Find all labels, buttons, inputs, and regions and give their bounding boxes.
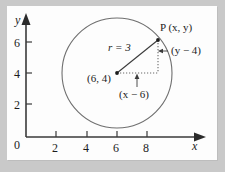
x-tick-label-8: 8 — [143, 142, 149, 154]
y-tick-label-2: 2 — [14, 99, 20, 111]
radius-label: r = 3 — [108, 42, 131, 53]
horizontal-leg-pointer-arrowhead — [135, 74, 140, 80]
x-tick-label-4: 4 — [83, 142, 89, 154]
point-p-label: P (x, y) — [160, 22, 192, 33]
y-axis-arrowhead — [22, 13, 31, 25]
vertical-leg-pointer-arrowhead — [158, 49, 163, 54]
origin-label: 0 — [14, 139, 20, 151]
y-tick-label-4: 4 — [14, 68, 20, 80]
horizontal-leg-label: (x − 6) — [119, 89, 149, 100]
figure-container: y x 0 2 4 6 8 2 4 6 P (x, y) r = 3 (6, 4… — [0, 0, 225, 172]
center-label: (6, 4) — [87, 73, 111, 84]
center-point-dot — [115, 71, 119, 75]
y-axis-label: y — [15, 14, 20, 26]
x-tick-label-6: 6 — [113, 142, 119, 154]
y-tick-label-6: 6 — [14, 37, 20, 49]
point-p-dot — [156, 38, 160, 42]
x-axis-label: x — [192, 140, 197, 152]
vertical-leg-label: (y − 4) — [171, 45, 201, 56]
x-tick-label-2: 2 — [52, 142, 58, 154]
